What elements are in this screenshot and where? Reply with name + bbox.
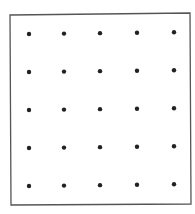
grid-dot-r3-c5	[172, 106, 176, 110]
grid-dot-r4-c2	[62, 145, 66, 149]
grid-dot-r5-c3	[98, 183, 102, 187]
dot-grid-diagram	[0, 0, 195, 214]
grid-dot-r3-c1	[27, 108, 31, 112]
grid-dot-r5-c1	[27, 184, 31, 188]
grid-dot-r3-c2	[62, 107, 66, 111]
grid-dot-r3-c4	[135, 107, 139, 111]
grid-dot-r5-c4	[135, 183, 139, 187]
dot-grid	[27, 30, 176, 188]
grid-dot-r4-c4	[135, 145, 139, 149]
grid-dot-r1-c4	[135, 31, 139, 35]
grid-dot-r3-c3	[98, 107, 102, 111]
grid-dot-r1-c3	[98, 31, 102, 35]
grid-dot-r4-c5	[172, 144, 176, 148]
grid-dot-r2-c3	[98, 69, 102, 73]
grid-dot-r4-c3	[98, 145, 102, 149]
grid-dot-r5-c2	[62, 183, 66, 187]
grid-dot-r1-c1	[27, 32, 31, 36]
grid-dot-r2-c5	[172, 68, 176, 72]
grid-dot-r1-c5	[172, 30, 176, 34]
grid-dot-r4-c1	[27, 146, 31, 150]
grid-dot-r1-c2	[62, 31, 66, 35]
grid-dot-r2-c1	[27, 70, 31, 74]
grid-dot-r5-c5	[172, 182, 176, 186]
grid-dot-r2-c4	[135, 69, 139, 73]
grid-dot-r2-c2	[62, 69, 66, 73]
